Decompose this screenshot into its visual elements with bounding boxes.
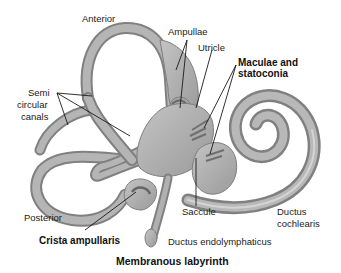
diagram-title: Membranous labyrinth bbox=[116, 256, 229, 267]
label-utricle: Utricle bbox=[198, 42, 225, 53]
label-ductus-cochlearis-line1: Ductus bbox=[277, 206, 307, 217]
label-ampullae: Ampullae bbox=[168, 26, 208, 37]
membranous-labyrinth-diagram: Anterior Ampullae Utricle Maculae and st… bbox=[0, 0, 341, 273]
label-saccule: Saccule bbox=[182, 206, 216, 217]
label-anterior: Anterior bbox=[82, 13, 115, 24]
label-ductus-endolymphaticus: Ductus endolymphaticus bbox=[168, 236, 272, 247]
anterior-canal bbox=[87, 28, 172, 110]
label-semi-line3: canals bbox=[21, 111, 48, 122]
label-semi-line1: Semi bbox=[28, 87, 50, 98]
label-maculae-line1: Maculae and bbox=[238, 57, 298, 68]
label-ductus-cochlearis-line2: cochlearis bbox=[277, 218, 320, 229]
label-semi-line2: circular bbox=[17, 99, 48, 110]
label-posterior: Posterior bbox=[24, 212, 62, 223]
posterior-ampulla bbox=[124, 179, 156, 210]
labyrinth-illustration bbox=[0, 0, 341, 273]
saccule-shape bbox=[192, 143, 236, 195]
label-crista-ampullaris: Crista ampullaris bbox=[39, 235, 120, 246]
common-crus bbox=[88, 98, 132, 160]
label-maculae-line2: statoconia bbox=[238, 68, 288, 79]
